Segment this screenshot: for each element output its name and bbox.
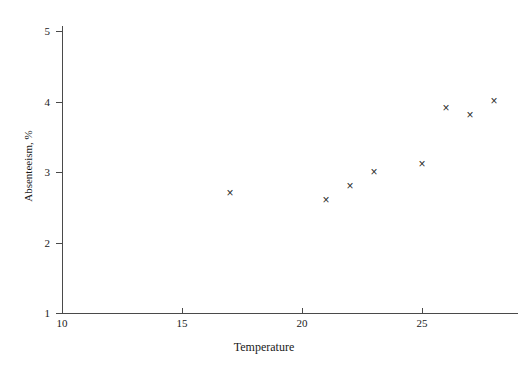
data-point: × [417,159,428,170]
x-axis-tick-10 [62,308,63,314]
x-axis-tick-15 [182,308,183,314]
scatter-plot-figure: 5 4 3 2 1 10 15 20 25 Absenteeism, % Tem… [0,0,528,370]
y-axis-tick-3 [56,172,62,173]
y-axis-title: Absenteeism, % [22,86,34,246]
data-point: × [465,110,476,121]
x-axis-tick-20 [302,308,303,314]
y-axis-ticklabel-5: 5 [28,26,50,37]
y-axis-tick-5 [56,31,62,32]
x-axis-tick-25 [422,308,423,314]
x-axis-ticklabel-15: 15 [167,318,197,329]
data-point: × [345,181,356,192]
y-axis-tick-4 [56,102,62,103]
x-axis-ticklabel-25: 25 [407,318,437,329]
x-axis-ticklabel-20: 20 [287,318,317,329]
data-point: × [369,167,380,178]
y-axis-tick-2 [56,243,62,244]
data-point: × [321,195,332,206]
data-point: × [441,103,452,114]
data-point: × [489,96,500,107]
x-axis-ticklabel-10: 10 [47,318,77,329]
y-axis-line [62,26,63,314]
x-axis-title: Temperature [0,340,528,355]
data-point: × [225,188,236,199]
x-axis-line [62,313,518,314]
